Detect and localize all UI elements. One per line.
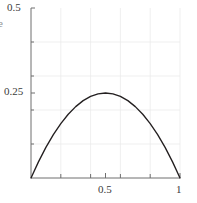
data-curve-parabola xyxy=(31,93,180,178)
y-axis-tick-label-mid: 0.25 xyxy=(4,86,23,97)
chart-figure: e 0.5 0.25 0.5 1 xyxy=(0,0,197,203)
x-axis-tick-label-right: 1 xyxy=(176,184,182,195)
gridlines-vertical xyxy=(61,8,180,178)
plot-area xyxy=(31,8,180,178)
y-axis-tick-label-top: 0.5 xyxy=(7,2,21,13)
x-axis-tick-label-mid: 0.5 xyxy=(98,184,112,195)
plot-svg xyxy=(31,8,180,178)
y-axis-label: e xyxy=(0,18,3,29)
